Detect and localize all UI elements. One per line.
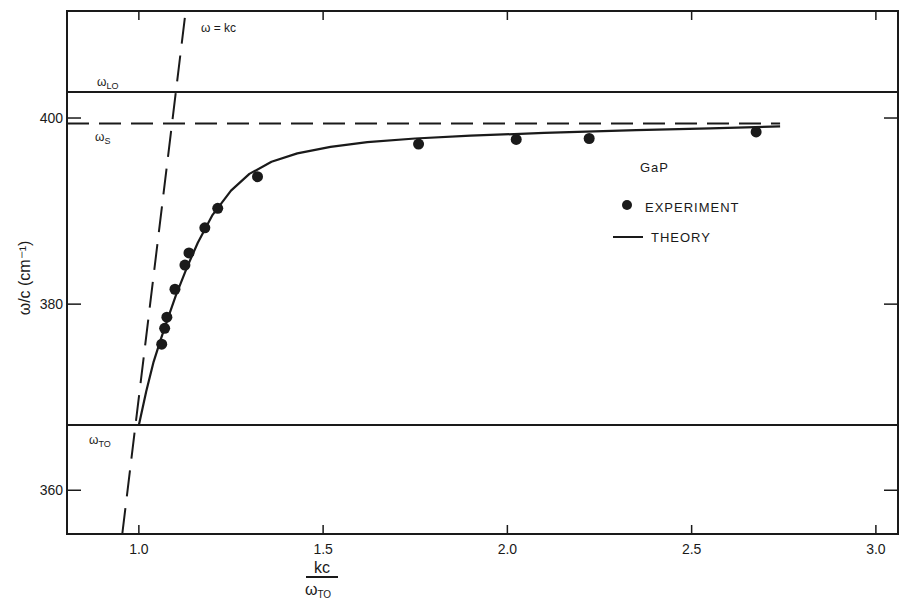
x-tick-label: 1.5: [313, 541, 333, 557]
y-axis-label: ω/c (cm⁻¹): [16, 241, 33, 316]
dispersion-chart: 1.01.52.02.53.0360380400 ω = kc GaP EXPE…: [0, 0, 917, 602]
theory-line: [139, 126, 780, 425]
legend-theory-label: THEORY: [651, 230, 711, 245]
legend-experiment-label: EXPERIMENT: [645, 200, 740, 215]
svg-text:ωS: ωS: [95, 130, 110, 146]
plot-frame: [67, 11, 898, 534]
experiment-point: [584, 133, 595, 144]
plot-border: [67, 11, 898, 534]
legend: EXPERIMENT THEORY: [613, 200, 740, 245]
experiment-point: [161, 312, 172, 323]
experiment-point: [156, 339, 167, 350]
x-tick-label: 2.5: [682, 541, 702, 557]
x-tick-label: 2.0: [498, 541, 518, 557]
experiment-point: [511, 134, 522, 145]
light-line: [122, 11, 185, 534]
svg-text:ωLO: ωLO: [97, 75, 118, 91]
x-axis-label-numerator: kc: [314, 559, 330, 576]
experiment-point: [183, 247, 194, 258]
y-tick-label: 400: [40, 110, 64, 126]
experiment-point: [159, 323, 170, 334]
experiment-point: [199, 222, 210, 233]
light-line-dashed: [122, 11, 185, 534]
x-tick-label: 3.0: [866, 541, 886, 557]
experiment-point: [212, 203, 223, 214]
x-axis-label-denominator: ωTO: [305, 581, 331, 600]
y-tick-label: 380: [40, 296, 64, 312]
theory-curve: [139, 126, 780, 425]
y-tick-label: 360: [40, 482, 64, 498]
experiment-point: [751, 126, 762, 137]
label-omega-lo: ωLO: [97, 75, 118, 91]
label-omega-s: ωS: [95, 130, 110, 146]
material-label: GaP: [640, 160, 669, 175]
x-axis-label: kc ωTO: [305, 559, 338, 600]
experiment-point: [169, 284, 180, 295]
x-tick-label: 1.0: [129, 541, 149, 557]
legend-experiment-marker: [622, 200, 632, 210]
experiment-point: [179, 260, 190, 271]
light-line-label: ω = kc: [201, 21, 236, 35]
experiment-point: [252, 171, 263, 182]
experiment-point: [413, 139, 424, 150]
svg-text:ωTO: ωTO: [89, 433, 111, 449]
label-omega-to: ωTO: [89, 433, 111, 449]
